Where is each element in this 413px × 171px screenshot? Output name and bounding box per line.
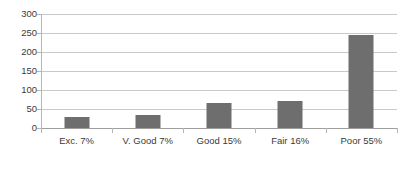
bar-slot-3 [255,14,326,128]
y-tick-label-300: 300 [3,9,37,19]
y-tick-mark-200 [37,52,41,53]
bar-slot-2 [183,14,254,128]
plot-area [41,14,397,128]
y-tick-mark-300 [37,14,41,15]
y-tick-label-200: 200 [3,47,37,57]
y-tick-mark-250 [37,33,41,34]
y-tick-mark-100 [37,90,41,91]
x-tick-mark-0 [41,128,42,133]
bar-v-good[interactable] [135,115,160,128]
x-axis-line [41,128,397,129]
y-tick-mark-50 [37,109,41,110]
y-tick-mark-150 [37,71,41,72]
x-axis-label-v-good: V. Good 7% [112,136,183,146]
bar-exc[interactable] [64,117,89,128]
y-tick-label-150: 150 [3,66,37,76]
y-axis-labels: 300 250 200 150 100 50 0 [0,0,37,171]
x-axis-label-exc: Exc. 7% [41,136,112,146]
x-axis-label-fair: Fair 16% [255,136,326,146]
x-tick-mark-4 [326,128,327,133]
x-tick-mark-2 [183,128,184,133]
bar-fair[interactable] [278,101,303,128]
y-axis-line [41,14,42,129]
x-tick-mark-5 [397,128,398,133]
bar-good[interactable] [206,103,231,128]
y-tick-label-250: 250 [3,28,37,38]
y-tick-label-0: 0 [3,123,37,133]
bar-poor[interactable] [349,35,374,128]
bar-slot-0 [41,14,112,128]
bar-slot-1 [112,14,183,128]
x-axis-label-good: Good 15% [183,136,254,146]
x-tick-mark-1 [112,128,113,133]
y-tick-label-50: 50 [3,104,37,114]
bar-slot-4 [326,14,397,128]
x-axis-label-poor: Poor 55% [326,136,397,146]
y-tick-label-100: 100 [3,85,37,95]
bar-chart: 300 250 200 150 100 50 0 Exc. 7% V. Good… [0,0,413,171]
x-tick-mark-3 [255,128,256,133]
